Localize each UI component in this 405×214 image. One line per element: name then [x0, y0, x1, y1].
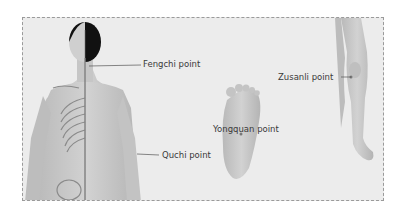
quchi-label: Quchi point: [162, 151, 211, 160]
zusanli-label: Zusanli point: [278, 73, 333, 82]
legs-figure: [335, 18, 373, 160]
yongquan-label: Yongquan point: [213, 125, 279, 134]
fengchi-label: Fengchi point: [143, 60, 200, 69]
back-figure: [25, 22, 141, 201]
anatomy-illustration: [23, 18, 384, 201]
illustration-frame: Fengchi point Quchi point Yongquan point…: [22, 17, 384, 201]
